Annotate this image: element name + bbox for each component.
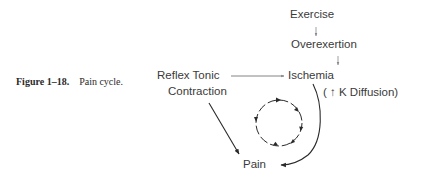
- arrow-ischemia-to-pain: [281, 84, 320, 165]
- cycle-icon: [254, 98, 303, 147]
- cycle-diagram: [0, 0, 425, 177]
- arrow-reflex-to-pain: [209, 103, 239, 154]
